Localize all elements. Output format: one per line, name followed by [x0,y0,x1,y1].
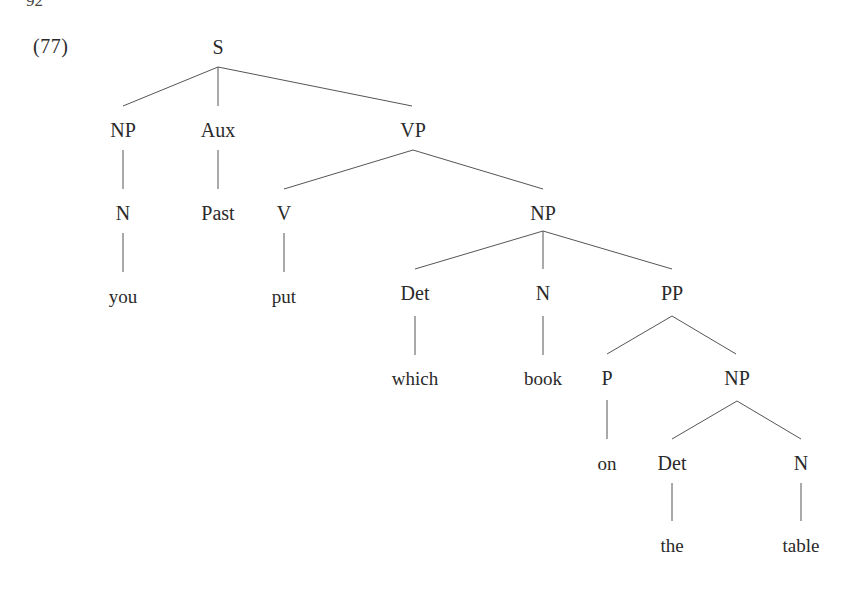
tree-branch-pp-p [607,316,672,354]
tree-leaf-put: put [272,287,296,306]
tree-node-p: P [601,368,612,388]
tree-branch-np3-det2 [672,401,737,439]
tree-branch-pp-np3 [672,316,736,354]
tree-node-n1: N [116,203,130,223]
tree-branch-vp-v [284,150,413,189]
tree-node-s: S [212,37,223,57]
tree-branch-np2-pp [543,231,672,269]
tree-node-n3: N [794,453,808,473]
tree-leaf-book: book [524,369,562,388]
tree-node-np3: NP [724,368,750,388]
tree-node-det1: Det [401,283,430,303]
tree-leaf-which: which [392,369,438,388]
tree-leaf-on: on [598,454,617,473]
tree-node-n2: N [536,283,550,303]
tree-node-np1: NP [110,120,136,140]
tree-node-aux: Aux [201,120,235,140]
tree-node-pp: PP [661,283,683,303]
tree-node-vp: VP [400,120,426,140]
tree-node-v: V [277,203,291,223]
tree-branch-np2-det1 [415,231,543,269]
tree-node-det2: Det [658,453,687,473]
tree-leaf-table: table [783,536,820,555]
tree-branch-s-vp [218,67,412,106]
tree-node-np2: NP [530,203,556,223]
tree-node-past: Past [201,203,234,223]
tree-branch-s-np1 [123,67,218,106]
tree-leaf-you: you [109,287,138,306]
tree-branch-vp-np2 [413,150,543,189]
tree-branch-np3-n3 [737,401,801,439]
tree-leaf-the: the [660,536,683,555]
